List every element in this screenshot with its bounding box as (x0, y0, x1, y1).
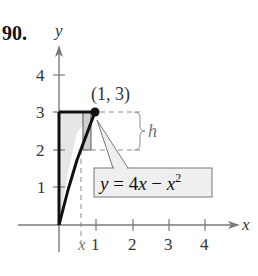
strip-x-label: x (77, 235, 86, 254)
y-tick-label: 4 (36, 66, 45, 85)
x-tick-label: 3 (164, 235, 173, 254)
y-tick-label: 3 (36, 103, 45, 122)
point-1-3 (91, 108, 100, 117)
x-tick-label: 2 (128, 235, 137, 254)
x-tick-label: 4 (200, 235, 209, 254)
y-axis-label: y (53, 21, 63, 40)
plot-area: 1 2 3 4 1 2 3 4 x y x h (1, 3) y = 4x − (0, 0, 258, 276)
x-tick-label: 1 (91, 235, 100, 254)
problem-number: 90. (2, 22, 27, 45)
h-brace-icon (134, 112, 145, 150)
height-label: h (148, 121, 157, 141)
equation-label: y = 4x − x2 (98, 171, 181, 194)
callout-pointer (97, 120, 128, 168)
x-axis-label: x (241, 215, 250, 234)
y-tick-label: 1 (37, 178, 46, 197)
y-tick-label: 2 (36, 141, 45, 160)
point-label: (1, 3) (91, 84, 130, 105)
figure: 90. 1 2 3 4 1 2 3 4 (0, 0, 258, 276)
